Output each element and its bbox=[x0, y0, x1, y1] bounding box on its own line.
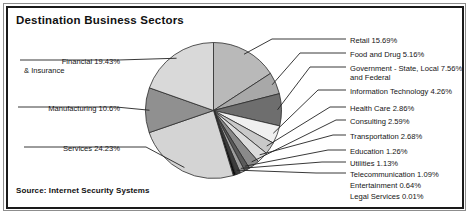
callout-text: Telecommunication 1.09% bbox=[350, 170, 439, 179]
callout-text: Food and Drug 5.16% bbox=[350, 50, 424, 59]
callout-text: Consulting 2.59% bbox=[350, 117, 410, 126]
callout-label-retail: Retail 15.69% bbox=[350, 36, 397, 45]
callout-label-utilities: Utilities 1.13% bbox=[350, 159, 398, 168]
callout-label-transportation: Transportation 2.68% bbox=[350, 132, 422, 141]
leader-line bbox=[273, 90, 346, 133]
callout-label-legal-services: Legal Services 0.01% bbox=[350, 192, 423, 201]
callout-label-food-and-drug: Food and Drug 5.16% bbox=[350, 50, 424, 59]
callout-text: Financial 19.43% bbox=[62, 57, 120, 66]
callout-text: Legal Services 0.01% bbox=[350, 192, 423, 201]
callout-text: Retail 15.69% bbox=[350, 36, 397, 45]
callout-label-financial-insurance: Financial 19.43% & Insurance bbox=[20, 57, 120, 76]
callout-label-government: Government - State, Local 7.56% and Fede… bbox=[350, 64, 462, 83]
callout-text: Health Care 2.86% bbox=[350, 104, 414, 113]
callout-label-information-technology: Information Technology 4.26% bbox=[350, 87, 452, 96]
leader-line bbox=[237, 170, 346, 173]
callout-label-entertainment: Entertainment 0.64% bbox=[350, 181, 421, 190]
leader-line bbox=[244, 39, 346, 54]
callout-text-line2: and Federal bbox=[350, 73, 462, 82]
callout-text: Utilities 1.13% bbox=[350, 159, 398, 168]
callout-text: Manufacturing 10.6% bbox=[48, 104, 120, 113]
callout-label-consulting: Consulting 2.59% bbox=[350, 117, 410, 126]
callout-text: Information Technology 4.26% bbox=[350, 87, 452, 96]
callout-text: Services 24.23% bbox=[63, 144, 120, 153]
callout-text-line2: & Insurance bbox=[20, 66, 120, 75]
callout-text: Education 1.26% bbox=[350, 147, 407, 156]
callout-label-health-care: Health Care 2.86% bbox=[350, 104, 414, 113]
callout-text: Entertainment 0.64% bbox=[350, 181, 421, 190]
callout-text: Government - State, Local 7.56% bbox=[350, 64, 462, 73]
callout-label-services: Services 24.23% bbox=[24, 144, 120, 153]
callout-label-education: Education 1.26% bbox=[350, 147, 407, 156]
callout-label-telecommunication: Telecommunication 1.09% bbox=[350, 170, 439, 179]
callout-label-manufacturing: Manufacturing 10.6% bbox=[18, 104, 120, 113]
source-note: Source: Internet Security Systems bbox=[16, 186, 150, 195]
chart-figure: Destination Business Sectors Retail 15.6… bbox=[0, 0, 473, 218]
leader-line bbox=[278, 67, 347, 110]
callout-text: Transportation 2.68% bbox=[350, 132, 422, 141]
